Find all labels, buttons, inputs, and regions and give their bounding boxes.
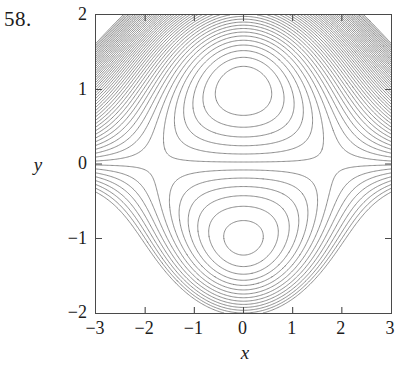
x-tick-label: −2 [124,318,164,338]
y-tick-label: −1 [47,228,87,248]
x-axis-label: x [225,343,265,363]
x-tick-label: −1 [173,318,213,338]
y-axis-label: y [28,155,48,175]
x-tick-label: 1 [272,318,312,338]
x-tick-label: 2 [321,318,361,338]
y-tick-label: −2 [47,302,87,322]
plot-area [95,14,392,314]
contour-lines [96,15,391,313]
x-tick-label: 3 [370,318,399,338]
problem-number-label: 58. [4,7,32,31]
y-tick-label: 2 [47,4,87,24]
x-tick-label: 0 [223,318,263,338]
y-tick-label: 1 [47,79,87,99]
y-tick-label: 0 [47,153,87,173]
contour-figure: 58. −3−2−10123 210−1−2 x y [0,0,399,368]
